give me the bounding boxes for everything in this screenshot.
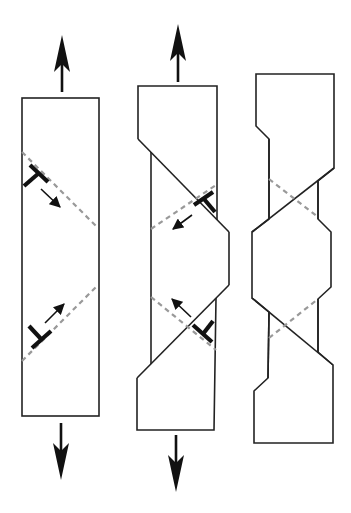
tension-arrow-up-icon <box>54 35 70 92</box>
tension-arrow-down-icon <box>168 435 184 492</box>
specimen-bar-deformed <box>252 74 334 443</box>
panel-final <box>252 74 334 443</box>
specimen-bar <box>22 98 99 416</box>
tension-arrow-down-icon <box>53 423 69 480</box>
panel-intermediate <box>137 24 229 492</box>
dislocation-slip-diagram <box>0 0 351 513</box>
tension-arrow-up-icon <box>170 24 186 82</box>
panel-initial <box>22 35 99 480</box>
diagram-canvas: Dislocation glide producing slip steps i… <box>0 0 351 513</box>
